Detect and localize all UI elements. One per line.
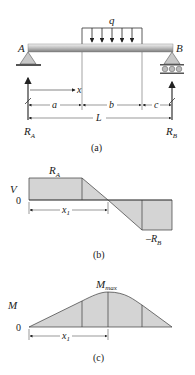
x-label: x	[76, 84, 82, 95]
moment-zero-label: 0	[16, 322, 21, 333]
support-b-label: B	[176, 42, 183, 54]
distributed-load-q: q	[82, 14, 142, 45]
caption-b: (b)	[93, 249, 105, 261]
shear-zero-label: 0	[16, 195, 21, 206]
shear-axis-label: V	[10, 183, 18, 195]
dim-c-label: c	[154, 99, 159, 110]
reaction-b-label: RB	[165, 125, 178, 140]
caption-a: (a)	[91, 142, 102, 154]
reaction-arrow-a	[25, 78, 31, 120]
panel-b-shear-diagram: RA V 0 x1 –RB (b)	[10, 164, 172, 261]
moment-axis-label: M	[7, 299, 18, 311]
support-a-label: A	[17, 42, 25, 54]
dim-a-label: a	[52, 99, 57, 110]
panel-c-moment-diagram: Mmax M 0 x1 (c)	[7, 278, 172, 364]
beam-diagram-figure: q A B x	[0, 0, 195, 375]
reaction-a-label: RA	[23, 125, 36, 140]
dim-L-label: L	[95, 112, 102, 123]
moment-area	[29, 292, 172, 327]
roller-support-icon	[160, 52, 184, 74]
dim-b-label: b	[109, 99, 114, 110]
panel-a-beam-loading: q A B x	[16, 14, 184, 154]
caption-c: (c)	[93, 352, 104, 364]
shear-top-label: RA	[48, 164, 61, 179]
beam	[28, 44, 173, 52]
moment-max-label: Mmax	[95, 278, 118, 292]
pin-support-icon	[16, 52, 41, 66]
shear-x1-label: x1	[61, 204, 70, 217]
moment-x1-label: x1	[61, 330, 70, 343]
shear-negative-area	[108, 200, 172, 230]
load-label: q	[109, 14, 115, 26]
reaction-arrow-b	[169, 82, 175, 120]
shear-positive-area	[29, 178, 108, 200]
load-arrows	[92, 28, 132, 42]
shear-bottom-label: –RB	[145, 233, 162, 247]
